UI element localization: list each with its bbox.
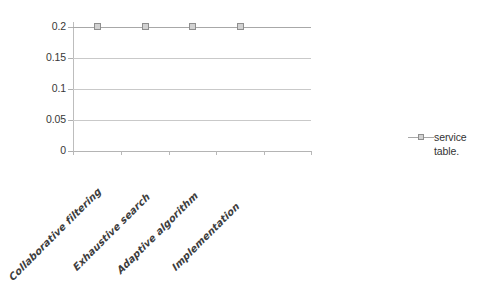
line-chart: 0.2 0.15 0.1 0.05 0 Collaborative filter… [0, 0, 491, 298]
x-tick-5 [311, 151, 312, 155]
gridline-0 [73, 151, 311, 152]
y-axis-label-0.2: 0.2 [34, 21, 66, 32]
y-tick-0.2 [68, 27, 73, 28]
y-tick-0.15 [68, 58, 73, 59]
data-point-adaptive-algorithm [189, 23, 196, 30]
x-tick-0 [73, 151, 74, 155]
legend-label-line1: service [434, 130, 467, 144]
y-axis-label-0.1: 0.1 [34, 83, 66, 94]
data-point-implementation [237, 23, 244, 30]
x-tick-3 [216, 151, 217, 155]
x-axis-label-collaborative-filtering: Collaborative filtering [7, 185, 103, 283]
x-axis-label-adaptive-algorithm: Adaptive algorithm [115, 190, 200, 276]
gridline-0.05 [73, 120, 311, 121]
legend-line-marker-icon [408, 133, 434, 142]
legend-entry-service-table: service [408, 130, 488, 144]
x-tick-1 [121, 151, 122, 155]
chart-legend: service table. [408, 130, 488, 158]
plot-area [73, 27, 311, 151]
gridline-0.15 [73, 58, 311, 59]
x-tick-4 [264, 151, 265, 155]
y-axis-label-0: 0 [34, 145, 66, 156]
y-tick-0.05 [68, 120, 73, 121]
data-point-collaborative-filtering [94, 23, 101, 30]
gridline-0.1 [73, 89, 311, 90]
y-tick-0.1 [68, 89, 73, 90]
x-tick-2 [169, 151, 170, 155]
legend-label-line2: table. [434, 144, 488, 158]
y-axis-label-0.15: 0.15 [34, 52, 66, 63]
data-point-exhaustive-search [142, 23, 149, 30]
y-axis-label-0.05: 0.05 [34, 114, 66, 125]
